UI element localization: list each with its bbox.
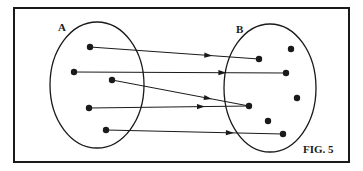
set-b-point: [283, 70, 289, 76]
set-a-point: [86, 105, 92, 111]
figure-caption: FIG. 5: [303, 143, 334, 155]
set-a-points: [71, 44, 115, 133]
set-b-label: B: [236, 23, 244, 35]
arrowhead-icon: [203, 95, 211, 100]
set-a-label: A: [58, 21, 66, 33]
mapping-diagram: A B FIG. 5: [0, 0, 363, 171]
arrowhead-icon: [197, 104, 205, 109]
set-b-point: [280, 131, 286, 137]
set-a-point: [71, 69, 77, 75]
set-b-point: [246, 103, 252, 109]
arrowhead-icon: [226, 130, 234, 135]
mapping-arrows: [74, 47, 286, 135]
mapping-line: [112, 80, 249, 106]
set-a-point: [87, 44, 93, 50]
set-b-point: [294, 95, 300, 101]
mapping-line: [89, 106, 249, 108]
set-a-point: [109, 77, 115, 83]
set-b-points: [246, 46, 300, 137]
set-a-point: [103, 127, 109, 133]
mapping-line: [106, 130, 283, 134]
set-a-ellipse: [50, 22, 144, 148]
set-b-point: [256, 56, 262, 62]
mapping-line: [74, 72, 286, 73]
set-b-point: [288, 46, 294, 52]
set-b-point: [265, 118, 271, 124]
